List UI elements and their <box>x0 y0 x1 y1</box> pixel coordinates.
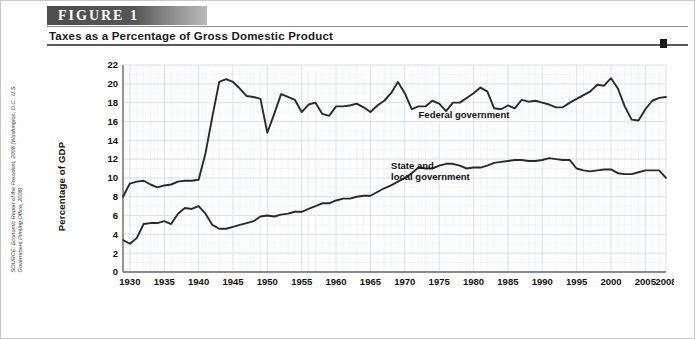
series-annotations: Federal governmentState andlocal governm… <box>391 109 510 182</box>
svg-text:1945: 1945 <box>222 276 244 287</box>
annotation-federal-government: Federal government <box>419 109 511 120</box>
svg-text:8: 8 <box>113 191 118 202</box>
y-axis-tick-labels: 0246810121416182022 <box>107 59 118 277</box>
taxes-gdp-line-chart: 0246810121416182022 19301935194019451950… <box>91 57 674 298</box>
svg-text:12: 12 <box>107 153 118 164</box>
svg-text:2: 2 <box>113 248 118 259</box>
svg-text:16: 16 <box>107 116 118 127</box>
svg-text:1950: 1950 <box>257 276 278 287</box>
svg-text:1975: 1975 <box>429 276 451 287</box>
svg-text:1930: 1930 <box>119 276 140 287</box>
figure-container: FIGURE 1 Taxes as a Percentage of Gross … <box>0 0 695 339</box>
svg-text:1980: 1980 <box>463 276 484 287</box>
svg-text:1995: 1995 <box>566 276 588 287</box>
svg-text:1970: 1970 <box>394 276 415 287</box>
chart-plot-area: 0246810121416182022 19301935194019451950… <box>91 57 674 298</box>
svg-text:1935: 1935 <box>154 276 176 287</box>
svg-text:10: 10 <box>107 172 118 183</box>
annotation-state-local-government: State andlocal government <box>391 160 470 182</box>
svg-text:18: 18 <box>107 97 118 108</box>
svg-text:0: 0 <box>113 266 118 277</box>
svg-text:6: 6 <box>113 210 118 221</box>
svg-text:2000: 2000 <box>600 276 621 287</box>
svg-text:4: 4 <box>113 229 119 240</box>
svg-text:1985: 1985 <box>497 276 519 287</box>
figure-number-label: FIGURE 1 <box>47 8 139 24</box>
source-note: SOURCE: Economic Report of the President… <box>10 72 25 272</box>
x-axis-tick-labels: 1930193519401945195019551960196519701975… <box>119 276 674 287</box>
figure-title: Taxes as a Percentage of Gross Domestic … <box>49 27 669 44</box>
svg-text:2005: 2005 <box>635 276 657 287</box>
svg-text:1960: 1960 <box>326 276 347 287</box>
svg-text:20: 20 <box>107 78 118 89</box>
y-axis-title: Percentage of GDP <box>56 122 67 252</box>
title-end-marker <box>660 39 667 48</box>
svg-text:1955: 1955 <box>291 276 313 287</box>
figure-number-badge: FIGURE 1 <box>47 6 207 25</box>
svg-text:2008: 2008 <box>655 276 674 287</box>
svg-text:1990: 1990 <box>532 276 553 287</box>
svg-text:1940: 1940 <box>188 276 209 287</box>
title-rule-bottom <box>47 44 688 46</box>
svg-text:22: 22 <box>107 59 118 70</box>
svg-text:1965: 1965 <box>360 276 382 287</box>
svg-text:14: 14 <box>107 135 118 146</box>
